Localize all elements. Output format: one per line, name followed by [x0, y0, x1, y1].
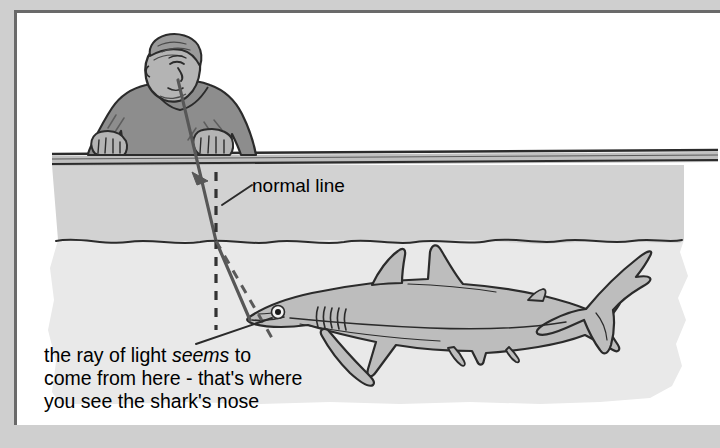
- person-left-hand: [91, 131, 127, 155]
- person-right-hand: [193, 129, 233, 155]
- observer-person: [88, 34, 256, 155]
- ray-caption-line2: come from here - that's where: [44, 367, 302, 389]
- ray-caption-line3: you see the shark's nose: [44, 390, 259, 412]
- ray-caption-line1-a: the ray of light: [44, 344, 172, 366]
- ray-caption: the ray of light seems tocome from here …: [44, 344, 302, 413]
- shark-eye-pupil: [275, 309, 281, 315]
- diagram-page: normal line the ray of light seems tocom…: [0, 0, 720, 448]
- water-upper-region: [52, 165, 684, 244]
- ray-caption-line1-b: to: [229, 344, 251, 366]
- ray-caption-emphasis: seems: [172, 344, 229, 366]
- normal-line-label: normal line: [252, 175, 345, 197]
